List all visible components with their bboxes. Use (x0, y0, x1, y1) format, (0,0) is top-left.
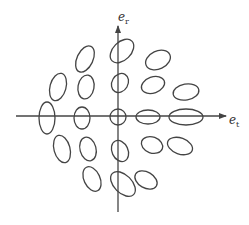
strain-ellipse (74, 107, 90, 129)
ellipse-group (39, 35, 203, 201)
vertical-axis-label: er (118, 10, 129, 26)
strain-ellipse (108, 138, 132, 165)
strain-ellipse (51, 133, 74, 164)
strain-ellipse (79, 164, 104, 194)
strain-ellipse (139, 134, 165, 157)
strain-ellipse (165, 134, 195, 158)
horizontal-axis-label: et (229, 113, 240, 129)
strain-ellipse (39, 102, 55, 134)
strain-ellipse-diagram: et er (0, 0, 249, 225)
strain-ellipse (108, 70, 132, 95)
strain-ellipse (76, 74, 96, 100)
strain-ellipse (169, 109, 203, 125)
strain-ellipse (106, 167, 140, 201)
strain-ellipse (72, 43, 98, 75)
strain-ellipse (106, 35, 139, 68)
strain-ellipse (172, 82, 200, 102)
strain-ellipse (142, 46, 173, 73)
strain-ellipse (136, 110, 160, 124)
strain-ellipse (77, 135, 99, 162)
strain-ellipse (139, 73, 167, 96)
strain-ellipse (47, 71, 70, 102)
